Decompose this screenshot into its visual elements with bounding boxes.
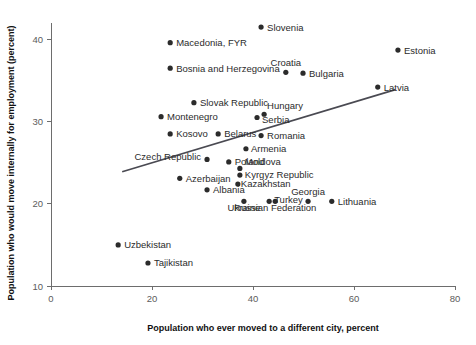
data-point-marker: [258, 25, 263, 30]
data-point-marker: [243, 146, 248, 151]
data-point-marker: [168, 40, 173, 45]
scatter-chart: 02040608010203040 SloveniaEstoniaMacedon…: [0, 0, 476, 345]
data-point-label: Slovak Republic: [200, 97, 268, 108]
data-point-label: Bosnia and Herzegovina: [176, 63, 280, 74]
data-point-marker: [283, 70, 288, 75]
data-point-marker: [305, 199, 310, 204]
y-tick-label: 10: [32, 281, 43, 292]
data-point-label: Moldova: [245, 156, 282, 167]
y-tick-label: 30: [32, 116, 43, 127]
data-point-label: Albania: [213, 184, 245, 195]
data-point-label: Kosovo: [176, 128, 208, 139]
data-point-marker: [237, 166, 242, 171]
x-tick-label: 80: [450, 293, 461, 304]
data-point-marker: [329, 199, 334, 204]
data-point-label: Montenegro: [167, 111, 218, 122]
data-point-marker: [168, 66, 173, 71]
data-point-marker: [395, 48, 400, 53]
data-points: SloveniaEstoniaMacedonia, FYRBosnia and …: [116, 22, 437, 269]
data-point-marker: [300, 71, 305, 76]
data-point-label: Latvia: [384, 82, 410, 93]
data-point-marker: [158, 114, 163, 119]
data-point-marker: [375, 85, 380, 90]
data-point-label: Serbia: [262, 114, 290, 125]
data-point-label: Bulgaria: [309, 68, 345, 79]
x-tick-label: 20: [147, 293, 158, 304]
data-point-marker: [177, 176, 182, 181]
data-point-label: Hungary: [267, 100, 303, 111]
data-point-marker: [145, 260, 150, 265]
data-point-label: Azerbaijan: [186, 173, 231, 184]
data-point-label: Czech Republic: [134, 151, 201, 162]
data-point-marker: [226, 159, 231, 164]
data-point-label: Belarus: [224, 128, 256, 139]
data-point-label: Lithuania: [338, 196, 377, 207]
data-point-marker: [237, 172, 242, 177]
data-point-label: Kazakhstan: [241, 178, 291, 189]
data-point-label: Georgia: [291, 186, 326, 197]
data-point-label: Armenia: [251, 143, 287, 154]
x-tick-label: 60: [349, 293, 360, 304]
data-point-marker: [116, 242, 121, 247]
data-point-marker: [204, 157, 209, 162]
data-point-marker: [254, 115, 259, 120]
data-point-marker: [191, 100, 196, 105]
data-point-label: Estonia: [404, 45, 436, 56]
data-point-label: Croatia: [271, 57, 302, 68]
data-point-label: Russian Federation: [234, 202, 316, 213]
y-axis-title: Population who would move internally for…: [6, 25, 16, 300]
y-tick-label: 20: [32, 198, 43, 209]
data-point-label: Macedonia, FYR: [176, 37, 247, 48]
data-point-marker: [258, 133, 263, 138]
data-point-label: Uzbekistan: [124, 239, 171, 250]
x-axis-title: Population who ever moved to a different…: [147, 323, 378, 333]
data-point-marker: [204, 187, 209, 192]
x-tick-label: 0: [48, 293, 53, 304]
x-tick-label: 40: [248, 293, 259, 304]
data-point-label: Slovenia: [267, 22, 304, 33]
y-tick-label: 40: [32, 34, 43, 45]
chart-canvas: 02040608010203040 SloveniaEstoniaMacedon…: [0, 0, 476, 345]
data-point-marker: [216, 131, 221, 136]
data-point-label: Romania: [267, 130, 306, 141]
data-point-marker: [168, 131, 173, 136]
data-point-label: Tajikistan: [154, 257, 193, 268]
